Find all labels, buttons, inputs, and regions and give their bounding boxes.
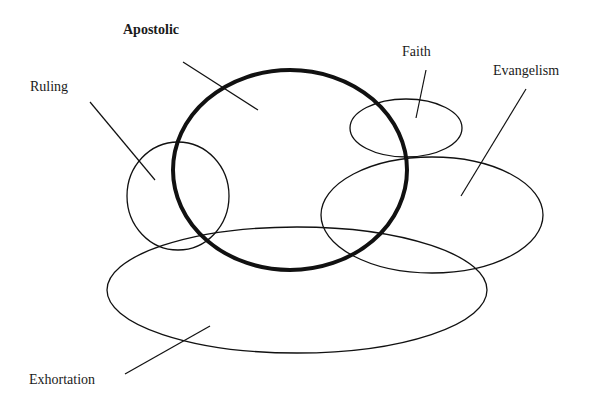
label-apostolic: Apostolic (123, 22, 179, 38)
leader-line-faith (416, 70, 426, 118)
leader-line-apostolic (183, 62, 258, 110)
ellipse-exhortation (107, 227, 487, 353)
spiritual-gifts-diagram (0, 0, 597, 402)
leader-line-exhortation (125, 326, 210, 374)
leader-line-evangelism (461, 89, 526, 196)
label-evangelism: Evangelism (493, 63, 559, 79)
label-exhortation: Exhortation (29, 372, 95, 388)
label-faith: Faith (402, 44, 431, 60)
diagram-canvas (0, 0, 597, 402)
leader-line-ruling (90, 102, 155, 180)
label-ruling: Ruling (30, 79, 68, 95)
